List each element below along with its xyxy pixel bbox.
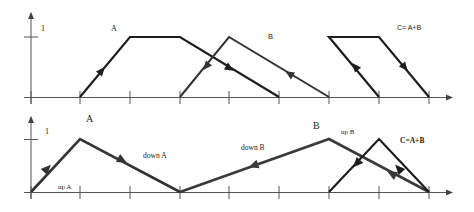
- bottom-label-a: A: [86, 113, 94, 124]
- top-label-c: C= A+B: [397, 24, 421, 31]
- bottom-curve-a: [31, 139, 180, 192]
- top-panel: 1 A B C: [24, 13, 452, 104]
- bottom-label-down-a: down A: [143, 151, 167, 160]
- diagram-canvas: 1 A B C: [0, 0, 474, 212]
- top-curve-b: [180, 37, 329, 97]
- bottom-label-b: B: [313, 120, 320, 131]
- bottom-label-down-b: down B: [241, 143, 265, 152]
- bottom-panel: 1 A B up B C=A+B up A dow: [24, 113, 452, 199]
- bottom-label-c: C=A+B: [400, 136, 424, 145]
- bottom-label-up-a: up A: [58, 183, 71, 191]
- bottom-label-up-b: up B: [341, 128, 355, 136]
- bottom-curve-b: [180, 139, 429, 192]
- top-curve-a: [80, 37, 279, 97]
- bottom-y-tick-label: 1: [45, 127, 49, 136]
- top-curve-c: [329, 37, 429, 97]
- top-label-b: B: [268, 32, 273, 41]
- top-label-a: A: [111, 24, 117, 33]
- bottom-down-b-arrow-icon: [247, 160, 259, 172]
- top-y-tick-label: 1: [41, 24, 45, 33]
